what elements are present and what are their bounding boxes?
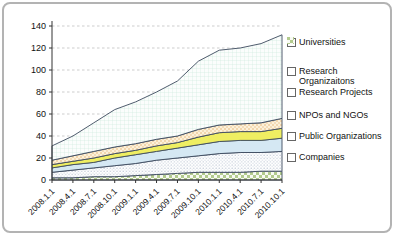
legend: UniversitiesResearch OrganizaitonsResear… bbox=[287, 37, 391, 162]
y-tick-label-140: 140 bbox=[31, 21, 46, 31]
y-tick-label-20: 20 bbox=[36, 153, 46, 163]
legend-swatch-public-organizations-icon bbox=[287, 132, 296, 141]
area-series-group bbox=[52, 35, 282, 180]
x-axis-labels: 2008.1.12008.4.12008.7.12008.10.12009.1.… bbox=[26, 186, 287, 220]
y-tick-label-100: 100 bbox=[31, 65, 46, 75]
legend-swatch-npos-and-ngos-icon bbox=[287, 111, 296, 120]
legend-label-npos-and-ngos: NPOs and NGOs bbox=[299, 110, 368, 120]
legend-label-universities: Universities bbox=[299, 37, 346, 47]
legend-label-public-organizations: Public Organizations bbox=[299, 131, 382, 141]
y-tick-label-60: 60 bbox=[36, 109, 46, 119]
legend-swatch-research-organizaitons-icon bbox=[287, 67, 296, 76]
legend-item-research-projects: Research Projects bbox=[287, 87, 391, 97]
y-tick-label-120: 120 bbox=[31, 43, 46, 53]
legend-item-npos-and-ngos: NPOs and NGOs bbox=[287, 110, 391, 120]
legend-swatch-research-projects-icon bbox=[287, 88, 296, 97]
legend-swatch-companies-icon bbox=[287, 153, 296, 162]
y-tick-label-0: 0 bbox=[41, 175, 46, 185]
y-tick-label-40: 40 bbox=[36, 131, 46, 141]
legend-item-public-organizations: Public Organizations bbox=[287, 131, 391, 141]
y-axis-labels: 020406080100120140 bbox=[31, 21, 46, 185]
legend-label-companies: Companies bbox=[299, 152, 345, 162]
legend-item-research-organizaitons: Research Organizaitons bbox=[287, 66, 391, 86]
legend-label-research-projects: Research Projects bbox=[299, 87, 373, 97]
y-tick-label-80: 80 bbox=[36, 87, 46, 97]
legend-item-universities: Universities bbox=[287, 37, 391, 47]
legend-label-research-organizaitons: Research Organizaitons bbox=[299, 66, 389, 86]
chart-frame: 020406080100120140 2008.1.12008.4.12008.… bbox=[2, 2, 392, 233]
legend-item-companies: Companies bbox=[287, 152, 391, 162]
